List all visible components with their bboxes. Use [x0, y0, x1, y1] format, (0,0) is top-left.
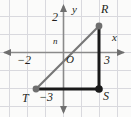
vertex-label-S: S [103, 90, 109, 102]
x-axis-arrow-right [117, 49, 125, 56]
vertex-label-R: R [101, 3, 108, 15]
origin-label: O [66, 54, 74, 65]
x-axis-arrow-left [3, 49, 11, 56]
y-axis-arrow-up [60, 4, 67, 12]
vertex-label-T: T [22, 92, 29, 104]
x-axis-label: x [112, 32, 117, 43]
coordinate-grid-figure: R S T x y O 2 n −2 3 −3 [0, 0, 131, 117]
tick-label-x-neg2: −2 [17, 54, 31, 66]
vertex-point-S [95, 85, 103, 93]
y-axis-label: y [72, 4, 77, 15]
tick-label-y-neg3: −3 [39, 91, 53, 103]
y-axis-arrow-down [60, 106, 67, 114]
tick-label-x-3: 3 [104, 54, 110, 66]
tick-label-y-n: n [53, 37, 58, 46]
tick-label-y-2: 2 [52, 11, 58, 23]
vertex-point-R [96, 23, 103, 30]
